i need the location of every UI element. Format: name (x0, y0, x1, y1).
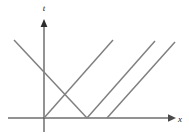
world-line-ascending-line-1 (44, 40, 113, 118)
t-axis-label: t (43, 3, 46, 13)
spacetime-diagram-figure: t x (0, 0, 189, 140)
x-axis-group (8, 114, 176, 121)
world-lines-group (14, 40, 175, 118)
t-axis-arrowhead (41, 19, 48, 27)
world-line-descending-line (14, 40, 87, 118)
x-axis-label: x (177, 114, 182, 124)
diagram-canvas: t x (0, 0, 189, 140)
x-axis-arrowhead (168, 114, 176, 121)
world-line-ascending-line-3 (107, 42, 175, 118)
world-line-ascending-line-2 (87, 41, 155, 118)
